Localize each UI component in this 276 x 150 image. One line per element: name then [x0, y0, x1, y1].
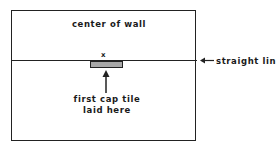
arrows-layer — [0, 0, 276, 150]
up-arrow-icon — [103, 70, 110, 93]
left-arrow-icon — [200, 58, 214, 64]
